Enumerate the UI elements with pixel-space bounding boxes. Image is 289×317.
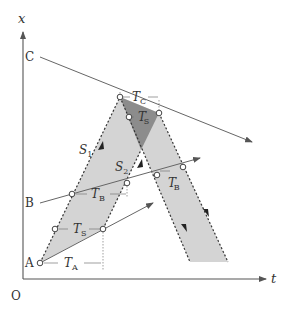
point-b-label: B [25,196,34,210]
origin-label: O [11,289,21,303]
s1-label: S1 [79,143,92,159]
vertical-axis-label: x [18,11,26,26]
point-a-label: A [24,256,34,270]
point-c-label: C [25,50,34,64]
spacetime-diagram: x t O C B A S1 S2 TA TS TB T′B TC T′S [0,0,289,317]
ta-label: TA [64,256,78,272]
arrow-s2-icon [137,159,143,168]
tc-label: TC [132,90,146,106]
horizontal-axis-label: t [271,271,277,286]
